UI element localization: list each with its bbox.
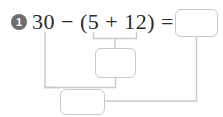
answer-box-subtraction-result[interactable] xyxy=(60,89,105,115)
connector-minuend-to-bottom xyxy=(45,32,60,88)
equation-text: 30 − (5 + 12) = xyxy=(32,8,174,36)
problem-line: 1 30 − (5 + 12) = xyxy=(11,8,174,36)
connector-middle-to-bottom xyxy=(45,78,116,88)
math-worksheet-problem: 1 30 − (5 + 12) = xyxy=(0,0,223,117)
answer-box-parenthesis-sum[interactable] xyxy=(95,48,136,78)
answer-box-final[interactable] xyxy=(175,9,218,37)
problem-number-badge: 1 xyxy=(11,14,27,30)
